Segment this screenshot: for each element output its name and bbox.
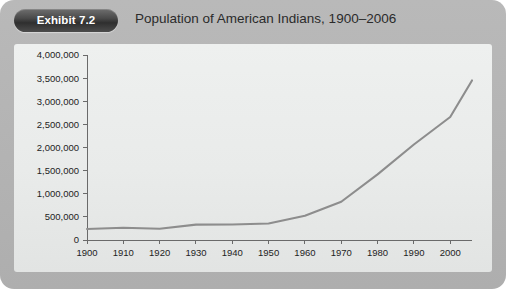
y-tick-label: 1,500,000 <box>37 165 79 176</box>
y-tick-label: 1,000,000 <box>37 188 79 199</box>
y-tick-label: 0 <box>74 234 79 245</box>
exhibit-badge: Exhibit 7.2 <box>14 9 118 32</box>
y-axis: 0500,0001,000,0001,500,0002,000,0002,500… <box>37 49 87 245</box>
x-tick-label: 1900 <box>76 247 97 258</box>
x-tick-label: 1950 <box>258 247 279 258</box>
y-tick-label: 2,500,000 <box>37 119 79 130</box>
x-tick-label: 1960 <box>294 247 315 258</box>
x-tick-label: 1930 <box>185 247 206 258</box>
x-tick-label: 1920 <box>149 247 170 258</box>
y-tick-label: 4,000,000 <box>37 49 79 60</box>
x-tick-label: 2000 <box>440 247 461 258</box>
x-tick-label: 1970 <box>331 247 352 258</box>
x-axis: 1900191019201930194019501960197019801990… <box>76 240 472 258</box>
x-tick-label: 1910 <box>113 247 134 258</box>
chart-title: Population of American Indians, 1900–200… <box>135 12 396 27</box>
exhibit-card: Exhibit 7.2 Population of American India… <box>0 0 506 289</box>
line-chart-svg: 0500,0001,000,0001,500,0002,000,0002,500… <box>14 44 492 272</box>
exhibit-badge-label: Exhibit 7.2 <box>37 15 96 27</box>
data-line-series <box>87 80 472 229</box>
x-tick-label: 1980 <box>367 247 388 258</box>
y-tick-label: 500,000 <box>45 211 79 222</box>
y-tick-label: 3,000,000 <box>37 96 79 107</box>
x-tick-label: 1940 <box>222 247 243 258</box>
y-tick-label: 2,000,000 <box>37 142 79 153</box>
chart-plot-area: 0500,0001,000,0001,500,0002,000,0002,500… <box>14 44 492 272</box>
y-tick-label: 3,500,000 <box>37 73 79 84</box>
x-tick-label: 1990 <box>403 247 424 258</box>
exhibit-header: Exhibit 7.2 Population of American India… <box>0 0 506 42</box>
data-series-group <box>87 80 472 229</box>
